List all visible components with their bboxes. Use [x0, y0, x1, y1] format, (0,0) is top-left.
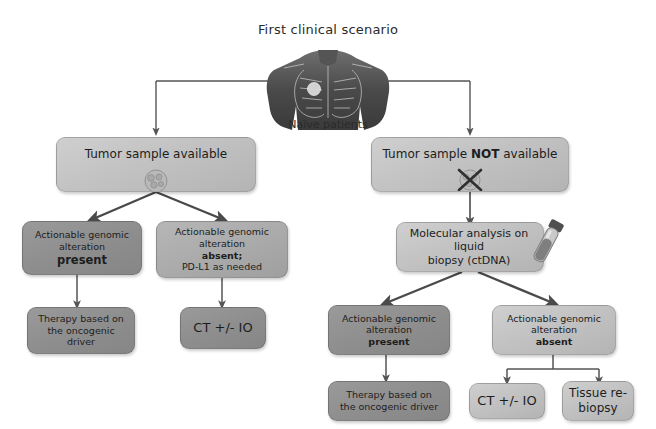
node-liquid-biopsy-label: Molecular analysis on liquid biopsy (ctD…	[403, 227, 537, 267]
node-right-alteration-present[interactable]: Actionable genomic alteration present	[328, 305, 450, 355]
node-tumor-sample-not-available[interactable]: Tumor sample NOT available	[371, 137, 569, 192]
node-left-therapy-label: Therapy based on the oncogenic driver	[34, 313, 128, 348]
node-tumor-sample-not-available-label: Tumor sample NOT available	[372, 147, 568, 162]
node-right-therapy-label: Therapy based on the oncogenic driver	[335, 389, 443, 412]
node-left-ct-io[interactable]: CT +/- IO	[180, 307, 266, 349]
node-right-ct-io[interactable]: CT +/- IO	[469, 383, 545, 419]
tumor-cell-icon	[140, 168, 172, 192]
node-left-alteration-absent[interactable]: Actionable genomic alteration absent; PD…	[156, 221, 288, 278]
node-right-alteration-absent-label: Actionable genomic alteration absent	[499, 313, 609, 348]
page-title: First clinical scenario	[0, 22, 656, 37]
node-tumor-sample-available-label: Tumor sample available	[57, 147, 255, 162]
patient-caption: Naïve patients	[244, 118, 412, 131]
flowchart-canvas: First clinical scenario	[0, 0, 656, 429]
tumor-cell-crossed-out-icon	[454, 167, 486, 192]
node-tissue-rebiopsy-label: Tissue re- biopsy	[569, 386, 627, 415]
node-left-alteration-present[interactable]: Actionable genomic alteration present	[22, 221, 142, 275]
node-right-alteration-absent[interactable]: Actionable genomic alteration absent	[492, 305, 616, 355]
blood-collection-tube-icon	[530, 215, 564, 275]
node-right-alteration-present-label: Actionable genomic alteration present	[335, 313, 443, 348]
node-left-ct-io-label: CT +/- IO	[187, 320, 259, 336]
node-left-alteration-present-label: Actionable genomic alteration present	[29, 229, 135, 266]
node-left-therapy-oncogenic-driver[interactable]: Therapy based on the oncogenic driver	[27, 307, 135, 354]
node-right-therapy-oncogenic-driver[interactable]: Therapy based on the oncogenic driver	[328, 381, 450, 421]
node-tissue-rebiopsy[interactable]: Tissue re- biopsy	[562, 381, 634, 421]
node-tumor-sample-available[interactable]: Tumor sample available	[56, 137, 256, 192]
node-right-ct-io-label: CT +/- IO	[476, 393, 538, 409]
node-liquid-biopsy[interactable]: Molecular analysis on liquid biopsy (ctD…	[396, 222, 544, 272]
node-left-alteration-absent-label: Actionable genomic alteration absent; PD…	[163, 226, 281, 272]
